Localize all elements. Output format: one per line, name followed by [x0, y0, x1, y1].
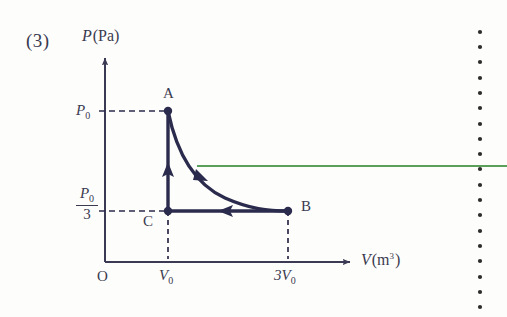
point-label-a: A: [163, 86, 174, 101]
y-tick-p0-symbol: P: [76, 102, 85, 118]
point-c: [164, 207, 172, 215]
fraction-numerator: P0: [74, 186, 100, 205]
origin-label: O: [97, 269, 108, 284]
y-tick-label-p0-third: P0 3: [74, 186, 100, 222]
x-axis-symbol: V: [361, 251, 371, 268]
y-axis-symbol: P: [82, 27, 92, 44]
curve-a-to-b: [168, 111, 288, 211]
figure-page: (3) P(Pa) V(m3) P0 P0 3 O V0 3V0 A B C: [0, 0, 507, 317]
point-label-b: B: [301, 199, 311, 214]
y-axis-label: P(Pa): [82, 28, 119, 44]
scan-dot-column: [478, 30, 482, 309]
point-a: [164, 107, 172, 115]
x-axis-unit-close: ): [395, 251, 400, 268]
fraction-numerator-subscript: 0: [89, 193, 94, 204]
x-axis-unit-exponent: 3: [390, 251, 395, 261]
x-axis-label: V(m3): [361, 252, 400, 268]
x-axis-unit: (m: [372, 251, 390, 268]
x-tick-v0-symbol: V: [159, 267, 168, 283]
point-b: [284, 207, 292, 215]
point-label-c: C: [143, 214, 153, 229]
curve-arrowhead-ab: [193, 169, 208, 181]
fraction-numerator-symbol: P: [80, 185, 89, 201]
y-tick-label-p0: P0: [76, 103, 90, 121]
x-tick-v0-subscript: 0: [168, 275, 173, 286]
x-tick-3v0-symbol: 3V: [274, 267, 291, 283]
y-tick-p0-subscript: 0: [85, 110, 90, 121]
x-tick-label-v0: V0: [159, 268, 173, 286]
fraction-denominator: 3: [74, 207, 100, 222]
y-axis-unit: (Pa): [93, 27, 120, 44]
x-tick-3v0-subscript: 0: [291, 275, 296, 286]
pv-diagram-svg: [0, 0, 507, 317]
problem-number: (3): [26, 31, 50, 50]
x-tick-label-3v0: 3V0: [274, 268, 296, 286]
